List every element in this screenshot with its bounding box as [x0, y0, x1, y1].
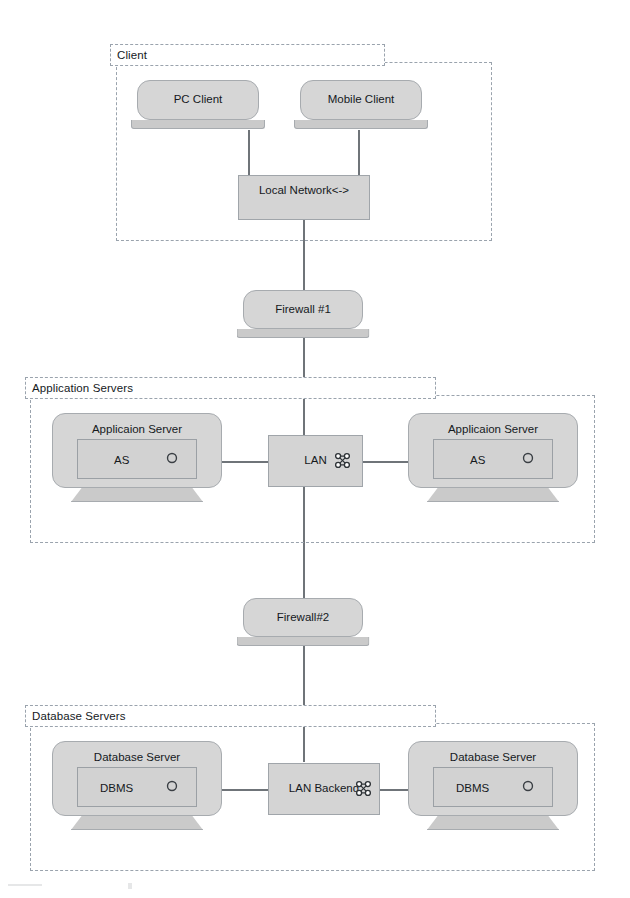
node-app-server-right[interactable]: Applicaion Server AS: [408, 413, 578, 501]
db-server-right-panel: [433, 767, 553, 807]
mobile-client-stand: [294, 120, 428, 129]
status-ring-icon: [521, 451, 535, 465]
node-lan-backend[interactable]: LAN Backend: [268, 763, 380, 815]
zone-client-label: Client: [117, 50, 147, 62]
db-server-right-stand: [427, 816, 559, 830]
app-server-right-label: Applicaion Server: [408, 424, 578, 436]
db-server-left-panel-label: DBMS: [100, 783, 133, 795]
app-server-left-stand: [71, 488, 203, 502]
status-ring-icon: [521, 779, 535, 793]
scan-artifact: [128, 883, 132, 889]
network-cluster-icon: [333, 451, 352, 470]
status-ring-icon: [165, 451, 179, 465]
local-network-label: Local Network<->: [239, 185, 369, 197]
node-mobile-client[interactable]: Mobile Client: [300, 80, 422, 130]
app-server-right-panel-label: AS: [470, 455, 485, 467]
zone-database-servers-label: Database Servers: [32, 711, 126, 723]
status-ring-icon: [165, 779, 179, 793]
scan-artifact: [8, 884, 42, 886]
app-server-right-stand: [427, 488, 559, 502]
app-server-left-label: Applicaion Server: [52, 424, 222, 436]
db-server-right-label: Database Server: [408, 752, 578, 764]
node-db-server-left[interactable]: Database Server DBMS: [52, 741, 222, 829]
zone-client-tab: [110, 44, 385, 66]
zone-application-servers-label: Application Servers: [32, 383, 133, 395]
db-server-right-panel-label: DBMS: [456, 783, 489, 795]
lan-label: LAN: [269, 455, 384, 467]
firewall-1-label: Firewall #1: [243, 304, 363, 316]
lan-backend-label: LAN Backend: [269, 783, 399, 795]
pc-client-label: PC Client: [137, 94, 259, 106]
node-firewall-1[interactable]: Firewall #1: [243, 290, 363, 338]
app-server-left-panel-label: AS: [114, 455, 129, 467]
db-server-left-stand: [71, 816, 203, 830]
db-server-left-label: Database Server: [52, 752, 222, 764]
app-server-right-panel: [433, 439, 553, 479]
firewall-2-stand: [237, 637, 370, 646]
node-app-server-left[interactable]: Applicaion Server AS: [52, 413, 222, 501]
node-local-network[interactable]: Local Network<->: [238, 175, 370, 220]
pc-client-stand: [131, 120, 265, 129]
firewall-1-stand: [237, 329, 370, 338]
firewall-2-label: Firewall#2: [243, 612, 363, 624]
node-lan[interactable]: LAN: [268, 435, 363, 487]
node-pc-client[interactable]: PC Client: [137, 80, 259, 130]
app-server-left-panel: [77, 439, 197, 479]
mobile-client-label: Mobile Client: [300, 94, 422, 106]
network-architecture-diagram: Client PC Client Mobile Client Local Net…: [0, 0, 630, 898]
network-cluster-icon: [354, 779, 373, 798]
node-db-server-right[interactable]: Database Server DBMS: [408, 741, 578, 829]
node-firewall-2[interactable]: Firewall#2: [243, 598, 363, 646]
db-server-left-panel: [77, 767, 197, 807]
